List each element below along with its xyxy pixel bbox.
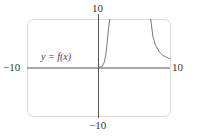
x-max-label: 10 [172, 62, 183, 73]
curve-segment-left [99, 19, 110, 68]
y-min-label: −10 [89, 120, 106, 131]
y-max-label: 10 [92, 3, 103, 14]
function-label: y = f(x) [41, 51, 71, 62]
x-min-label: −10 [3, 62, 20, 73]
curve-segment-right [151, 19, 170, 59]
